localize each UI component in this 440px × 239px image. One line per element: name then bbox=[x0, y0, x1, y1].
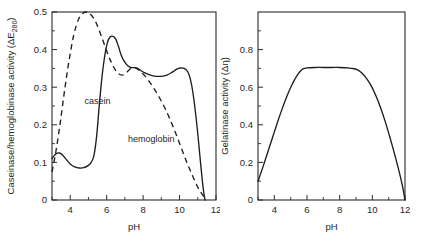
y-tick-label: 0.8 bbox=[240, 44, 253, 55]
y-tick-label: 0.6 bbox=[240, 82, 253, 93]
x-tick-label: 8 bbox=[140, 204, 145, 215]
x-tick-label: 8 bbox=[337, 204, 342, 215]
curve-annotation: hemoglobin bbox=[128, 134, 175, 144]
curve-casein bbox=[52, 36, 205, 200]
curve-annotation: casein bbox=[85, 96, 111, 106]
y-tick-label: 0.2 bbox=[240, 157, 253, 168]
y-axis-label-subscript: 280 bbox=[11, 21, 18, 33]
figure-root: 00.10.20.30.40.54681012pHCaseinase/hemog… bbox=[0, 0, 440, 239]
y-axis-label-main: Gelatinase activity ( bbox=[220, 71, 230, 155]
plot-frame bbox=[52, 12, 216, 200]
x-tick-label: 10 bbox=[174, 204, 185, 215]
chart-panel-left: 00.10.20.30.40.54681012pHCaseinase/hemog… bbox=[0, 0, 220, 239]
chart-panel-right: 00.20.40.60.84681012pHGelatinase activit… bbox=[220, 0, 440, 239]
x-tick-label: 6 bbox=[104, 204, 109, 215]
curve-hemoglobin bbox=[52, 12, 206, 199]
x-tick-label: 4 bbox=[68, 204, 73, 215]
y-tick-label: 0.4 bbox=[34, 44, 47, 55]
curve-gelatinase bbox=[258, 67, 405, 200]
x-tick-label: 10 bbox=[367, 204, 378, 215]
y-tick-label: 0.5 bbox=[34, 6, 47, 17]
y-axis-label-close: ) bbox=[5, 18, 16, 21]
y-tick-label: 0 bbox=[42, 194, 47, 205]
plot-right: 00.20.40.60.84681012pHGelatinase activit… bbox=[220, 0, 440, 239]
y-tick-label: 0.2 bbox=[34, 119, 47, 130]
x-axis-label: pH bbox=[325, 221, 337, 232]
y-axis-label-close: ) bbox=[220, 57, 230, 60]
y-axis-label-symbol: Δη bbox=[220, 60, 230, 72]
y-tick-label: 0.4 bbox=[240, 119, 253, 130]
y-axis-label-symbol: ΔE bbox=[5, 32, 16, 45]
x-tick-label: 12 bbox=[211, 204, 220, 215]
x-tick-label: 4 bbox=[272, 204, 277, 215]
y-axis-label-main: Caseinase/hemoglobinase activity ( bbox=[5, 44, 16, 194]
plot-left: 00.10.20.30.40.54681012pHCaseinase/hemog… bbox=[0, 0, 220, 239]
plot-frame bbox=[258, 12, 405, 200]
x-axis-label: pH bbox=[128, 221, 140, 232]
y-axis-label: Gelatinase activity (Δη) bbox=[220, 57, 230, 155]
y-axis-label: Caseinase/hemoglobinase activity (ΔE280) bbox=[5, 18, 18, 195]
y-tick-label: 0.1 bbox=[34, 157, 47, 168]
y-tick-label: 0 bbox=[248, 194, 253, 205]
x-tick-label: 12 bbox=[400, 204, 411, 215]
x-tick-label: 6 bbox=[304, 204, 309, 215]
y-tick-label: 0.3 bbox=[34, 82, 47, 93]
